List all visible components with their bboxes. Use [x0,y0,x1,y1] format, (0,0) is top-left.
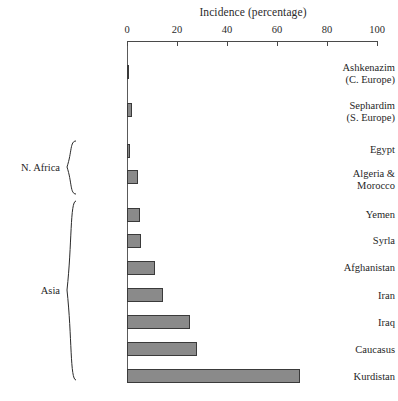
category-label-sephardim: Sephardim (S. Europe) [274,100,398,123]
category-label-sephardim-line2: (S. Europe) [274,112,395,124]
group-brace-n-africa [63,140,77,196]
category-label-iraq: Iraq [274,317,398,329]
bar-algeria-morocco [127,170,138,184]
x-tick-label-100: 100 [369,24,385,35]
bar-syria [127,234,141,248]
category-label-ashkenazim-line2: (C. Europe) [274,74,395,86]
chart-title: Incidence (percentage) [128,6,378,18]
category-label-afghanistan: Afghanistan [274,262,398,274]
x-axis-line [127,41,378,42]
bar-sephardim [127,103,132,117]
x-tick-label-0: 0 [124,24,129,35]
bar-afghanistan [127,261,155,275]
x-tick-80 [327,41,328,46]
x-tick-40 [227,41,228,46]
category-label-egypt: Egypt [274,144,398,156]
category-label-ashkenazim: Ashkenazim (C. Europe) [274,62,398,85]
bar-egypt [127,144,130,158]
x-tick-0 [127,41,128,46]
category-label-algeria-morocco-line1: Algeria & [274,168,395,180]
category-label-syria: Syrla [274,235,398,247]
bar-caucasus [127,342,197,356]
category-label-caucasus: Caucasus [274,344,398,356]
bar-ashkenazim [127,65,129,79]
x-tick-100 [377,41,378,46]
bar-kurdistan [127,369,300,383]
bar-iraq [127,315,190,329]
bar-yemen [127,208,140,222]
category-label-algeria-morocco-line2: Morocco [274,180,395,192]
group-label-n-africa: N. Africa [12,162,60,173]
group-brace-asia [63,200,77,382]
x-tick-label-40: 40 [222,24,233,35]
x-tick-60 [277,41,278,46]
x-tick-label-80: 80 [322,24,333,35]
category-label-algeria-morocco: Algeria & Morocco [274,168,398,191]
category-label-yemen: Yemen [274,209,398,221]
incidence-bar-chart: Incidence (percentage) 0 20 40 60 80 100… [0,0,398,401]
category-label-iran: Iran [274,290,398,302]
bar-iran [127,288,163,302]
category-label-sephardim-line1: Sephardim [274,100,395,112]
category-label-ashkenazim-line1: Ashkenazim [274,62,395,74]
group-label-asia: Asia [20,285,60,296]
x-tick-20 [177,41,178,46]
x-tick-label-20: 20 [172,24,183,35]
x-tick-label-60: 60 [272,24,283,35]
